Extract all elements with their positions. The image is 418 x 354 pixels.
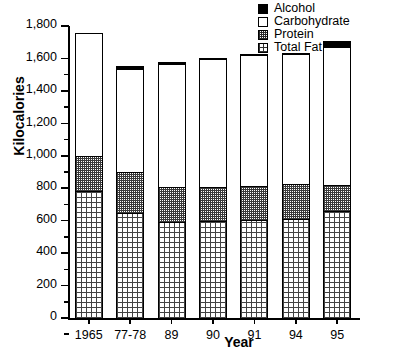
y-tick-400: 400 bbox=[61, 252, 69, 254]
y-tick-label-600: 600 bbox=[0, 212, 57, 226]
segment-total-fat-95 bbox=[323, 211, 351, 318]
x-axis-line bbox=[68, 318, 360, 320]
y-tick-label-1200: 1,200 bbox=[0, 115, 57, 129]
y-minor-tick bbox=[64, 236, 69, 238]
bar-77-78[interactable] bbox=[116, 26, 144, 318]
y-tick-1800: 1,800 bbox=[61, 25, 69, 27]
y-tick-1600: 1,600 bbox=[61, 58, 69, 60]
segment-protein-94 bbox=[282, 184, 310, 219]
segment-carbohydrate-91 bbox=[240, 56, 268, 186]
x-axis-label: Year bbox=[60, 334, 418, 350]
legend-item-total-fat: Total Fat bbox=[258, 41, 408, 54]
y-tick-600: 600 bbox=[61, 220, 69, 222]
y-minor-tick bbox=[64, 204, 69, 206]
legend-label-total-fat: Total Fat bbox=[274, 41, 322, 54]
chart-legend: Alcohol Carbohydrate Protein Total Fat bbox=[258, 2, 408, 54]
segment-carbohydrate-1965 bbox=[75, 34, 103, 155]
segment-protein-89 bbox=[158, 187, 186, 223]
y-minor-tick bbox=[64, 269, 69, 271]
x-tick-94 bbox=[295, 318, 297, 324]
y-minor-tick bbox=[64, 106, 69, 108]
y-tick-0: 0 bbox=[61, 317, 69, 319]
segment-protein-77-78 bbox=[116, 172, 144, 213]
bar-95[interactable] bbox=[323, 26, 351, 318]
y-tick-label-800: 800 bbox=[0, 179, 57, 193]
y-minor-tick bbox=[64, 301, 69, 303]
legend-swatch-alcohol bbox=[258, 4, 268, 14]
legend-swatch-protein bbox=[258, 30, 268, 40]
segment-protein-1965 bbox=[75, 156, 103, 192]
y-tick-label-200: 200 bbox=[0, 277, 57, 291]
segment-protein-90 bbox=[199, 187, 227, 221]
bar-90[interactable] bbox=[199, 26, 227, 318]
segment-total-fat-77-78 bbox=[116, 213, 144, 318]
segment-protein-91 bbox=[240, 186, 268, 220]
y-tick-label-0: 0 bbox=[0, 309, 57, 323]
segment-carbohydrate-95 bbox=[323, 48, 351, 185]
x-tick-91 bbox=[254, 318, 256, 324]
y-tick-label-1400: 1,400 bbox=[0, 82, 57, 96]
y-tick-label-400: 400 bbox=[0, 244, 57, 258]
x-tick-77-78 bbox=[129, 318, 131, 324]
legend-swatch-carbohydrate bbox=[258, 17, 268, 27]
x-tick-95 bbox=[336, 318, 338, 324]
segment-carbohydrate-77-78 bbox=[116, 70, 144, 172]
x-tick-89 bbox=[171, 318, 173, 324]
x-tick-1965 bbox=[88, 318, 90, 324]
y-tick-200: 200 bbox=[61, 285, 69, 287]
chart-figure: Kilocalories by Year Alcohol Carbohydrat… bbox=[0, 0, 418, 354]
segment-alcohol-90 bbox=[199, 58, 227, 60]
plot-area: 02004006008001,0001,2001,4001,6001,800 1… bbox=[70, 20, 360, 318]
segment-carbohydrate-90 bbox=[199, 60, 227, 187]
segment-protein-95 bbox=[323, 185, 351, 211]
bar-91[interactable] bbox=[240, 26, 268, 318]
bar-94[interactable] bbox=[282, 26, 310, 318]
x-tick-90 bbox=[212, 318, 214, 324]
segment-alcohol-77-78 bbox=[116, 66, 144, 70]
segment-carbohydrate-89 bbox=[158, 65, 186, 187]
segment-total-fat-91 bbox=[240, 220, 268, 318]
y-tick-800: 800 bbox=[61, 187, 69, 189]
segment-total-fat-1965 bbox=[75, 191, 103, 318]
y-tick-1000: 1,000 bbox=[61, 155, 69, 157]
y-tick-label-1800: 1,800 bbox=[0, 17, 57, 31]
segment-total-fat-89 bbox=[158, 222, 186, 318]
segment-alcohol-91 bbox=[240, 54, 268, 56]
bar-89[interactable] bbox=[158, 26, 186, 318]
y-tick-1400: 1,400 bbox=[61, 90, 69, 92]
segment-total-fat-94 bbox=[282, 219, 310, 318]
segment-alcohol-89 bbox=[158, 62, 186, 65]
y-tick-label-1600: 1,600 bbox=[0, 50, 57, 64]
legend-swatch-total-fat bbox=[258, 43, 268, 53]
segment-total-fat-90 bbox=[199, 221, 227, 318]
segment-alcohol-1965 bbox=[75, 33, 103, 34]
y-tick-1200: 1,200 bbox=[61, 123, 69, 125]
bar-1965[interactable] bbox=[75, 26, 103, 318]
y-tick-label-1000: 1,000 bbox=[0, 147, 57, 161]
y-minor-tick bbox=[64, 171, 69, 173]
y-minor-tick bbox=[64, 74, 69, 76]
y-minor-tick bbox=[64, 139, 69, 141]
segment-carbohydrate-94 bbox=[282, 55, 310, 184]
